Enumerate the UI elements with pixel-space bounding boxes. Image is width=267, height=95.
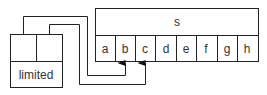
cell-e: e — [183, 42, 190, 56]
cell-h: h — [244, 42, 251, 56]
cell-a: a — [102, 42, 109, 56]
struct-box: limited — [10, 34, 63, 88]
diagram-canvas: limited s a b c d e f g h — [0, 0, 267, 95]
cell-g: g — [224, 42, 231, 56]
cell-b: b — [122, 42, 129, 56]
cell-c: c — [142, 42, 148, 56]
string-box: s a b c d e f g h — [95, 9, 259, 62]
string-box-label: s — [174, 15, 180, 29]
struct-box-label: limited — [19, 68, 54, 82]
cell-d: d — [163, 42, 170, 56]
